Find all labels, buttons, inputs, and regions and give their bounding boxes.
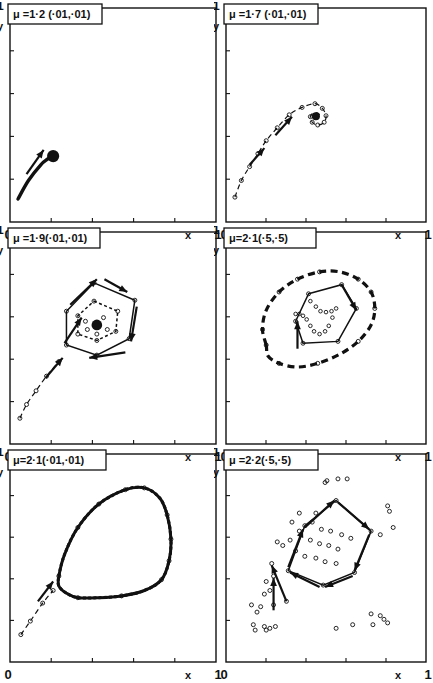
orbit-data-layer	[261, 270, 377, 367]
orbit-point	[264, 580, 268, 584]
parameter-label: μ =1·7 (·01,·01)	[224, 4, 318, 24]
parameter-label-text: μ=2·1(·01,·01)	[13, 454, 85, 466]
orbit-point	[314, 556, 318, 560]
parameter-label: μ=2·1(·01,·01)	[8, 450, 106, 470]
orbit-point	[309, 324, 313, 328]
orbit-point	[309, 299, 313, 303]
x-axis-variable: x	[395, 669, 402, 681]
orbit-point	[287, 113, 291, 117]
parameter-label-text: μ =2·2(·5,·5)	[229, 454, 291, 466]
parameter-label: μ =2·2(·5,·5)	[224, 450, 318, 470]
panel-frame	[226, 232, 426, 444]
y-axis-variable: y	[214, 20, 220, 32]
phase-portrait-panel: 1y0x1μ =1·9(·01,·01)	[0, 226, 230, 468]
orbit-point	[259, 605, 263, 609]
arrow-head-icon	[294, 321, 301, 329]
orbit-point	[322, 120, 326, 124]
phase-portrait-panel: 1y0x1μ=2·1(·01,·01)	[0, 448, 230, 683]
parameter-label: μ =1·2 (·01,·01)	[8, 4, 102, 24]
orbit-point	[95, 332, 99, 336]
panel-frame	[226, 8, 426, 222]
fixed-point-cluster	[47, 150, 59, 162]
orbit-point	[318, 332, 322, 336]
arrow-head-icon	[272, 565, 278, 574]
axes-box	[226, 8, 426, 222]
orbit-point	[391, 526, 395, 530]
orbit-point	[314, 511, 318, 515]
orbit-point	[275, 126, 279, 130]
phase-portrait-panel: 1y0x1μ =1·2 (·01,·01)	[0, 2, 230, 246]
orbit-point	[270, 562, 274, 566]
orbit-point	[105, 328, 109, 332]
parameter-label-text: μ =1·9(·01,·01)	[13, 232, 88, 244]
orbit-point	[305, 318, 309, 322]
orbit-point	[323, 560, 327, 564]
orbit-point	[281, 544, 285, 548]
orbit-point	[336, 547, 340, 551]
orbit-point	[378, 614, 382, 618]
axis-labels: 1y0x1	[214, 226, 432, 464]
y-max-label: 1	[214, 2, 220, 13]
phase-portrait-panel: 1y0x1μ=2·1(·5,·5)	[214, 226, 433, 468]
orbit-point	[386, 504, 390, 508]
orbit-point	[327, 324, 331, 328]
orbit-point	[303, 554, 307, 558]
axes-box	[10, 8, 216, 222]
panel-frame	[10, 8, 216, 222]
orbit-point	[371, 623, 375, 627]
transient-trajectory	[21, 591, 53, 635]
axes-box	[10, 232, 216, 444]
period-six-orbit-polygon	[66, 283, 134, 355]
orbit-point	[288, 538, 292, 542]
orbit-point	[334, 562, 338, 566]
orbit-point	[253, 628, 257, 632]
panel-frame	[10, 232, 216, 444]
x-max-label: 1	[424, 667, 431, 682]
orbit-point	[329, 529, 333, 533]
orbit-point	[25, 403, 29, 407]
axis-ticks	[10, 496, 175, 662]
orbit-point	[318, 542, 322, 546]
orbit-point	[294, 312, 298, 316]
orbit-point	[314, 305, 318, 309]
fixed-point-cluster	[312, 112, 320, 120]
axis-ticks	[10, 51, 175, 222]
orbit-point	[255, 610, 259, 614]
y-max-label: 1	[0, 226, 4, 237]
orbit-point	[345, 477, 349, 481]
orbit-point	[273, 625, 277, 629]
orbit-point	[323, 330, 327, 334]
arrow-head-icon	[354, 562, 360, 571]
orbit-point	[34, 389, 38, 393]
phase-portrait-panel: 1y0x1μ =2·2(·5,·5)	[214, 448, 433, 683]
y-max-label: 1	[0, 448, 4, 459]
orbit-data-layer	[19, 486, 173, 637]
orbit-point	[349, 536, 353, 540]
orbit-data-layer	[18, 279, 137, 420]
y-axis-variable: y	[0, 20, 4, 32]
parameter-label-text: μ =1·7 (·01,·01)	[229, 8, 307, 20]
axis-labels: 1y0x1	[0, 448, 222, 682]
orbit-point	[334, 626, 338, 630]
axis-labels: 1y0x1	[0, 226, 222, 464]
orbit-point	[301, 314, 305, 318]
orbit-point	[312, 330, 316, 334]
axis-labels: 1y0x1	[0, 2, 222, 242]
orbit-point	[334, 307, 338, 311]
parameter-label-text: μ=2·1(·5,·5)	[229, 232, 288, 244]
y-max-label: 1	[214, 448, 220, 459]
parameter-label: μ =1·9(·01,·01)	[8, 228, 100, 248]
orbit-point	[102, 316, 106, 320]
orbit-point	[319, 527, 323, 531]
orbit-point	[378, 533, 382, 537]
orbit-point	[387, 509, 391, 513]
origin-label: 0	[4, 667, 11, 682]
orbit-point	[351, 623, 355, 627]
orbit-data-layer	[233, 102, 328, 199]
panel-frame	[226, 454, 426, 662]
y-axis-variable: y	[214, 244, 220, 256]
orbit-point	[85, 328, 89, 332]
y-max-label: 1	[214, 226, 220, 237]
orbit-point	[262, 592, 266, 596]
